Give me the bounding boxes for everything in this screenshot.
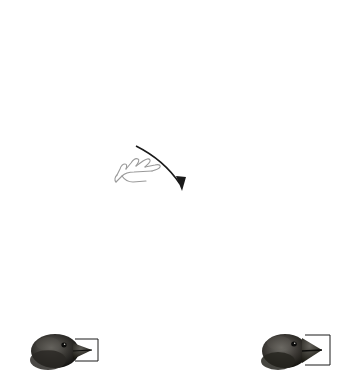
mean-shift-annotation <box>112 144 232 200</box>
pointing-hand-icon <box>115 159 160 182</box>
finch-head-large-beak-photo <box>258 330 346 371</box>
chart-1976 <box>46 8 336 148</box>
chart-1978 <box>46 180 336 316</box>
plot-area-1978 <box>46 180 336 316</box>
finch-head-small-beak-photo <box>26 330 114 371</box>
plot-area-1976 <box>46 8 336 148</box>
curved-down-arrow-icon <box>136 146 186 191</box>
figure-root <box>0 0 349 371</box>
